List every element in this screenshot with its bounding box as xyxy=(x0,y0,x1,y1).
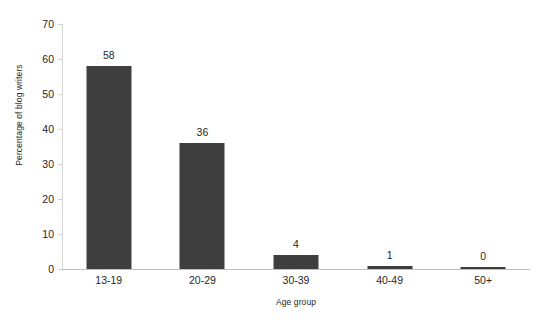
x-axis-line xyxy=(62,269,530,270)
y-axis-tick-label: 40 xyxy=(30,124,54,134)
bar-group: 36 xyxy=(156,24,250,269)
y-axis-tick-mark xyxy=(58,199,62,200)
bar[interactable] xyxy=(180,143,225,269)
y-axis-tick-mark xyxy=(58,164,62,165)
bar-value-label: 58 xyxy=(103,50,115,61)
y-axis-tick-mark xyxy=(58,234,62,235)
bar[interactable] xyxy=(86,66,131,269)
x-axis-tick-label: 30-39 xyxy=(249,274,343,286)
x-axis-tick-label: 40-49 xyxy=(343,274,437,286)
bar-group: 58 xyxy=(62,24,156,269)
y-axis-tick-mark xyxy=(58,59,62,60)
x-axis-tick-label: 13-19 xyxy=(62,274,156,286)
bar-chart: Percentage of blog writers 0102030405060… xyxy=(0,0,544,324)
y-axis-tick-label: 70 xyxy=(30,19,54,29)
bar-value-label: 4 xyxy=(293,239,299,250)
y-axis-tick-label: 0 xyxy=(30,264,54,274)
y-axis-tick-label: 50 xyxy=(30,89,54,99)
bar-value-label: 0 xyxy=(480,251,486,262)
y-axis-title: Percentage of blog writers xyxy=(14,0,30,255)
y-axis-tick-labels: 010203040506070 xyxy=(30,0,54,324)
bar[interactable] xyxy=(461,267,506,270)
y-axis-tick-mark xyxy=(58,24,62,25)
bar[interactable] xyxy=(273,255,318,269)
y-axis-tick-label: 30 xyxy=(30,159,54,169)
bar-group: 4 xyxy=(249,24,343,269)
y-axis-tick-label: 20 xyxy=(30,194,54,204)
bar-value-label: 36 xyxy=(197,127,209,138)
y-axis-tick-mark xyxy=(58,269,62,270)
bar-group: 1 xyxy=(343,24,437,269)
bar-value-label: 1 xyxy=(387,250,393,261)
plot-area: 5836410 xyxy=(62,24,530,269)
bar-series: 5836410 xyxy=(62,24,530,269)
x-axis-tick-labels: 13-1920-2930-3940-4950+ xyxy=(62,274,530,290)
y-axis-tick-mark xyxy=(58,94,62,95)
x-axis-tick-label: 50+ xyxy=(436,274,530,286)
x-axis-title: Age group xyxy=(62,297,530,307)
bar-group: 0 xyxy=(436,24,530,269)
y-axis-tick-label: 10 xyxy=(30,229,54,239)
y-axis-tick-label: 60 xyxy=(30,54,54,64)
x-axis-tick-label: 20-29 xyxy=(156,274,250,286)
y-axis-tick-mark xyxy=(58,129,62,130)
bar[interactable] xyxy=(367,266,412,270)
